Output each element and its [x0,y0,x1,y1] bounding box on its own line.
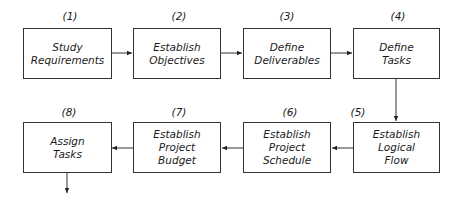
step-1-label-line1: Study [31,41,105,54]
step-8-box: AssignTasks [23,122,112,173]
step-2-label-line2: Objectives [149,54,204,67]
step-7-label-line2: Project [153,141,200,154]
step-4-number: (4) [383,10,413,22]
step-7-number: (7) [164,106,194,118]
step-5-box: EstablishLogicalFlow [353,122,440,173]
step-5-label-line2: Logical [373,141,420,154]
step-2-box: EstablishObjectives [133,28,221,79]
step-8-number: (8) [54,106,84,118]
step-7-label-line1: Establish [153,128,200,141]
step-8-label-line2: Tasks [50,148,84,161]
step-7-label-line3: Budget [153,154,200,167]
step-6-label-line3: Schedule [263,154,311,167]
step-3-label-line1: Define [254,41,319,54]
step-6-label-line2: Project [263,141,311,154]
step-6-number: (6) [275,106,305,118]
step-6-label-line1: Establish [263,128,311,141]
step-8-label-line1: Assign [50,135,84,148]
step-5-label-line3: Flow [373,154,420,167]
step-4-box: DefineTasks [353,28,440,79]
step-1-box: StudyRequirements [23,28,112,79]
step-3-box: DefineDeliverables [243,28,331,79]
step-3-label-line2: Deliverables [254,54,319,67]
step-4-label-line2: Tasks [379,54,413,67]
step-2-label-line1: Establish [149,41,204,54]
step-4-label-line1: Define [379,41,413,54]
step-7-box: EstablishProjectBudget [133,122,221,173]
step-6-box: EstablishProjectSchedule [243,122,331,173]
step-2-number: (2) [164,10,194,22]
step-5-number: (5) [343,106,373,118]
step-1-label-line2: Requirements [31,54,105,67]
step-3-number: (3) [272,10,302,22]
step-5-label-line1: Establish [373,128,420,141]
step-1-number: (1) [55,10,85,22]
